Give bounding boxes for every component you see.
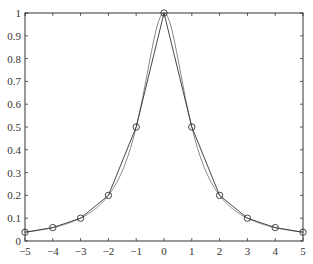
x-tick-label: −3 — [75, 245, 87, 257]
x-tick-label: 5 — [300, 245, 306, 257]
y-tick-label: 0.2 — [7, 189, 21, 201]
chart: 00.10.20.30.40.50.60.70.80.91 −5−4−3−2−1… — [0, 0, 313, 264]
x-axis-ticks: −5−4−3−2−1012345 — [19, 13, 306, 257]
y-tick-label: 1 — [16, 7, 22, 19]
x-tick-label: −2 — [103, 245, 115, 257]
x-tick-label: 3 — [245, 245, 251, 257]
linear-interp-line — [25, 13, 303, 232]
y-tick-label: 0.6 — [7, 98, 21, 110]
y-axis-ticks: 00.10.20.30.40.50.60.70.80.91 — [7, 7, 303, 247]
x-tick-label: 4 — [272, 245, 278, 257]
x-tick-label: −1 — [130, 245, 142, 257]
plot-frame — [25, 13, 303, 241]
y-tick-label: 0.8 — [7, 53, 21, 65]
y-tick-label: 0.3 — [7, 167, 21, 179]
y-tick-label: 0.1 — [7, 212, 21, 224]
y-tick-label: 0.9 — [7, 30, 21, 42]
y-tick-label: 0.5 — [7, 121, 21, 133]
x-tick-label: 0 — [161, 245, 167, 257]
smooth-curve — [25, 13, 303, 232]
y-tick-label: 0.4 — [7, 144, 21, 156]
y-tick-label: 0.7 — [7, 75, 21, 87]
x-tick-label: 2 — [217, 245, 223, 257]
data-markers — [22, 10, 306, 236]
x-tick-label: −4 — [47, 245, 59, 257]
x-tick-label: −5 — [19, 245, 31, 257]
x-tick-label: 1 — [189, 245, 195, 257]
